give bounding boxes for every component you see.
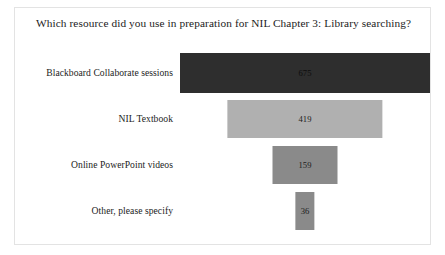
bar[interactable]: 36: [295, 192, 314, 230]
plot-area: Blackboard Collaborate sessions675NIL Te…: [15, 51, 430, 245]
bar-track: 675: [180, 51, 430, 95]
bar-value-label: 36: [301, 206, 310, 216]
bar-row: Blackboard Collaborate sessions675: [15, 51, 430, 95]
bar[interactable]: 675: [180, 53, 430, 93]
bar-row: NIL Textbook419: [15, 97, 430, 141]
bar-category-label: NIL Textbook: [15, 113, 173, 125]
bar[interactable]: 159: [273, 146, 338, 184]
bar-value-label: 159: [299, 160, 312, 170]
bar-track: 159: [180, 143, 430, 187]
bar-row: Online PowerPoint videos159: [15, 143, 430, 187]
bar-track: 36: [180, 189, 430, 233]
bar-value-label: 675: [299, 68, 312, 78]
bar-category-label: Blackboard Collaborate sessions: [15, 67, 173, 79]
bar-category-label: Online PowerPoint videos: [15, 159, 173, 171]
chart-title: Which resource did you use in preparatio…: [33, 16, 414, 31]
bar-track: 419: [180, 97, 430, 141]
bar-row: Other, please specify36: [15, 189, 430, 233]
bar-category-label: Other, please specify: [15, 205, 173, 217]
chart-card: Which resource did you use in preparatio…: [14, 7, 431, 245]
bar[interactable]: 419: [227, 100, 382, 138]
bar-value-label: 419: [299, 114, 312, 124]
